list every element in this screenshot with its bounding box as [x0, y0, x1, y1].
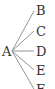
node-child-e: E: [36, 64, 46, 77]
tree-diagram: A B C D E F: [0, 0, 55, 89]
node-child-f: F: [36, 83, 45, 89]
edge-a-c: [12, 31, 34, 51]
node-child-d: D: [36, 45, 46, 58]
node-root: A: [2, 45, 11, 58]
edge-a-f: [12, 51, 34, 89]
edge-a-b: [12, 11, 34, 51]
node-child-c: C: [36, 25, 46, 38]
node-child-b: B: [36, 4, 46, 17]
edge-a-e: [12, 51, 34, 70]
